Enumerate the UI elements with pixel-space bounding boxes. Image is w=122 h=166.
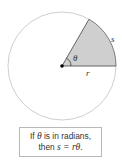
caption-text: If — [30, 131, 37, 141]
r-label: r — [86, 68, 90, 78]
circle-sector-diagram: θ r s — [0, 0, 122, 126]
formula: s = rθ — [57, 142, 80, 152]
center-dot — [60, 64, 64, 68]
s-label: s — [111, 34, 115, 44]
caption-line-1: If θ is in radians, — [20, 131, 101, 142]
caption-box: If θ is in radians, then s = rθ. — [19, 127, 102, 157]
caption-text: . — [80, 142, 82, 152]
shaded-sector — [62, 19, 116, 66]
caption-text: then — [38, 142, 57, 152]
theta-label: θ — [73, 53, 78, 63]
caption-text: is in radians, — [42, 131, 91, 141]
caption-line-2: then s = rθ. — [20, 142, 101, 153]
